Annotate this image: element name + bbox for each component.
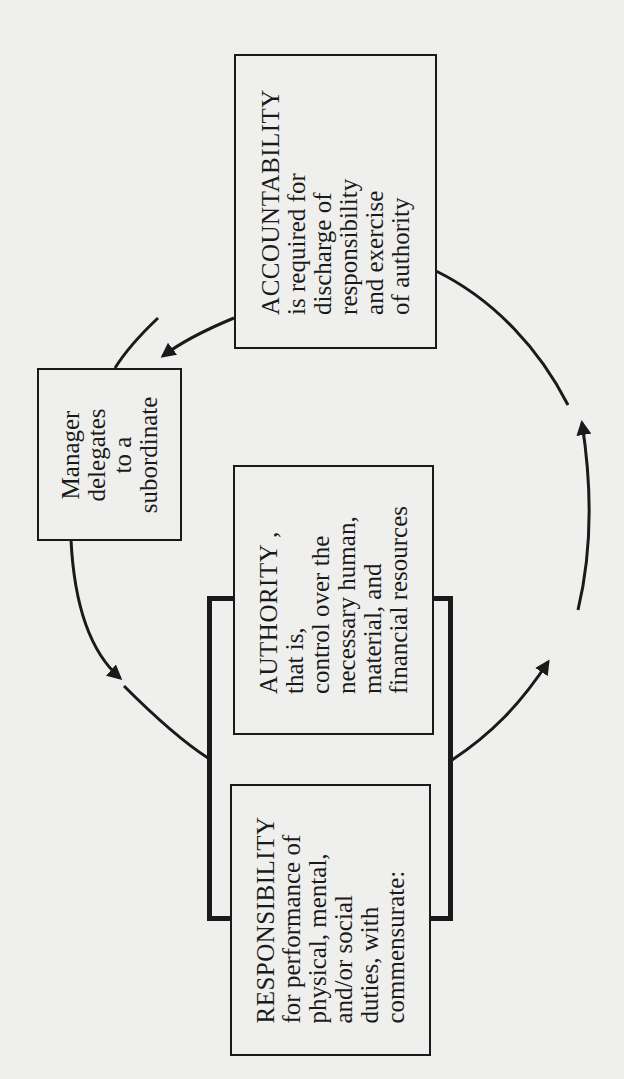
accountability-line: responsibility bbox=[336, 89, 362, 315]
authority-box: AUTHORITY , that is, control over the ne… bbox=[233, 465, 434, 735]
responsibility-title: RESPONSIBILITY bbox=[253, 816, 279, 1023]
arrow-accountability-to-manager bbox=[167, 312, 234, 328]
responsibility-line: for performance of bbox=[279, 816, 305, 1023]
responsibility-line: and/or social bbox=[331, 816, 357, 1023]
manager-box: Manager delegates to a subordinate bbox=[37, 368, 182, 541]
authority-line: necessary human, bbox=[334, 506, 360, 694]
responsibility-box: RESPONSIBILITY for performance of physic… bbox=[230, 784, 431, 1056]
authority-title: AUTHORITY , bbox=[256, 506, 282, 694]
authority-line: control over the bbox=[308, 506, 334, 694]
manager-line: to a bbox=[110, 396, 136, 513]
responsibility-line: commensurate: bbox=[383, 816, 409, 1023]
accountability-line: discharge of bbox=[310, 89, 336, 315]
manager-line: delegates bbox=[84, 396, 110, 513]
responsibility-line: physical, mental, bbox=[305, 816, 331, 1023]
manager-line: Manager bbox=[58, 396, 84, 513]
accountability-title: ACCOUNTABILITY bbox=[258, 89, 284, 315]
manager-line: subordinate bbox=[136, 396, 162, 513]
responsibility-line: duties, with bbox=[357, 816, 383, 1023]
accountability-box: ACCOUNTABILITY is required for discharge… bbox=[234, 54, 437, 349]
accountability-line: is required for bbox=[284, 89, 310, 315]
authority-line: financial resources bbox=[386, 506, 412, 694]
authority-line: that is, bbox=[282, 506, 308, 694]
authority-line: material, and bbox=[360, 506, 386, 694]
accountability-line: and exercise bbox=[362, 89, 388, 315]
accountability-line: of authority bbox=[388, 89, 414, 315]
